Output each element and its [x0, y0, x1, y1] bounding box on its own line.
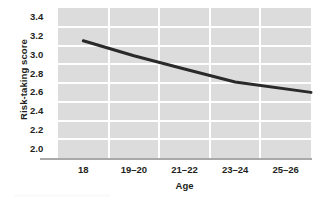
x-axis-baseline	[40, 158, 312, 160]
y-axis-tick-label: 2.8	[30, 68, 58, 79]
x-axis-title: Age	[58, 180, 311, 191]
y-axis-tick-label: 2.2	[30, 124, 58, 135]
risk-taking-score-line-chart: Risk-taking score 3.43.23.02.82.62.42.22…	[0, 0, 334, 201]
series-layer	[58, 8, 311, 158]
y-axis-title: Risk-taking score	[18, 5, 29, 155]
plot-panel	[58, 8, 311, 158]
scan-artifact	[14, 194, 110, 197]
y-axis-tick-label: 2.4	[30, 105, 58, 116]
y-axis-tick-label: 2.0	[30, 143, 58, 154]
y-axis-tick-label: 3.4	[30, 11, 58, 22]
risk-taking-score-line	[83, 41, 311, 93]
y-axis-tick-label: 3.2	[30, 30, 58, 41]
x-axis-tick-label: 25–26	[251, 164, 321, 175]
y-axis-tick-label: 2.6	[30, 86, 58, 97]
y-axis-tick-label: 3.0	[30, 49, 58, 60]
x-axis-tick-labels: 1819–2021–2223–2425–26	[58, 164, 311, 178]
y-axis-tick-labels: 3.43.23.02.82.62.42.22.0	[30, 8, 58, 158]
